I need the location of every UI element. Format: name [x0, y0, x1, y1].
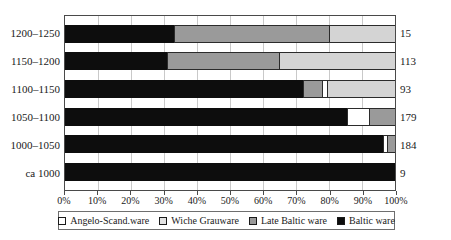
legend-item[interactable]: Wiche Grauware [159, 215, 239, 226]
legend-swatch-icon [159, 217, 167, 225]
y-axis-label: 1150–1200 [0, 52, 60, 70]
x-axis-tick-label: 30% [154, 195, 172, 206]
legend-label: Baltic ware [349, 215, 395, 226]
bar-row [65, 108, 395, 126]
bar-segment [279, 52, 395, 70]
y-axis-label: ca 1000 [0, 164, 60, 182]
legend-label: Late Baltic ware [261, 215, 327, 226]
y-axis-labels: 1200–12501150–12001100–11501050–11001000… [0, 15, 60, 191]
x-axis-tick-label: 70% [287, 195, 305, 206]
bar-segment [65, 52, 167, 70]
bar-segment [167, 52, 279, 70]
bar-segment [387, 135, 395, 153]
y-axis-label: 1200–1250 [0, 24, 60, 42]
x-axis-tick-label: 0% [57, 195, 70, 206]
y-axis-label: 1050–1100 [0, 108, 60, 126]
row-count: 93 [400, 80, 444, 98]
x-axis-tick-label: 80% [320, 195, 338, 206]
row-count: 9 [400, 164, 444, 182]
legend-swatch-icon [58, 217, 66, 225]
row-count: 184 [400, 136, 444, 154]
bar-row [65, 52, 395, 70]
bar-segment [347, 108, 368, 126]
y-axis-label: 1000–1050 [0, 136, 60, 154]
x-axis-tick-label: 10% [88, 195, 106, 206]
bar-rows [65, 16, 395, 190]
x-axis-tick-label: 20% [121, 195, 139, 206]
bar-segment [329, 25, 395, 43]
plot-area [64, 15, 396, 191]
row-count: 179 [400, 108, 444, 126]
row-count: 113 [400, 52, 444, 70]
x-axis-tick-label: 60% [254, 195, 272, 206]
legend-item[interactable]: Late Baltic ware [249, 215, 327, 226]
x-axis-tick-label: 40% [188, 195, 206, 206]
legend-swatch-icon [249, 217, 257, 225]
bar-row [65, 163, 395, 181]
bar-segment [65, 108, 347, 126]
bar-row [65, 80, 395, 98]
bar-segment [65, 135, 383, 153]
bar-segment [303, 80, 323, 98]
bar-segment [369, 108, 395, 126]
chart-legend: Angelo-Scand.wareWiche GrauwareLate Balt… [58, 211, 395, 230]
x-axis-tick-label: 100% [384, 195, 407, 206]
legend-item[interactable]: Baltic ware [337, 215, 395, 226]
bar-segment [327, 80, 395, 98]
stacked-bar-chart: 1200–12501150–12001100–11501050–11001000… [0, 0, 451, 240]
row-counts: 15113931791849 [400, 15, 444, 191]
x-axis-tick-label: 50% [221, 195, 239, 206]
bar-row [65, 135, 395, 153]
legend-label: Wiche Grauware [171, 215, 239, 226]
row-count: 15 [400, 24, 444, 42]
bar-segment [65, 25, 174, 43]
bar-segment [174, 25, 329, 43]
legend-item[interactable]: Angelo-Scand.ware [58, 215, 149, 226]
bar-row [65, 25, 395, 43]
x-axis-tick-label: 90% [354, 195, 372, 206]
x-axis: 0%10%20%30%40%50%60%70%80%90%100% [64, 191, 396, 209]
legend-label: Angelo-Scand.ware [70, 215, 149, 226]
legend-swatch-icon [337, 217, 345, 225]
bar-segment [65, 163, 395, 181]
bar-segment [65, 80, 303, 98]
y-axis-label: 1100–1150 [0, 80, 60, 98]
